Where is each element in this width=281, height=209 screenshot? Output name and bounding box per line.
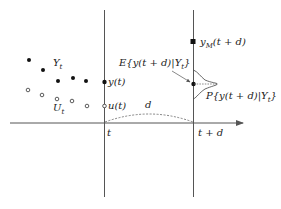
axis-label-t: t xyxy=(107,128,111,138)
horizon-arc xyxy=(105,114,193,122)
prediction-diagram xyxy=(0,0,281,209)
u-t-point xyxy=(103,104,107,108)
output-set-label: Yt xyxy=(53,58,62,71)
input-set-label: Ut xyxy=(53,103,64,116)
y-t-point xyxy=(102,80,106,84)
model-prediction-label: yM(t + d) xyxy=(200,37,246,50)
distribution-label: P{y(t + d)|Yt} xyxy=(206,91,277,104)
y-t-label: y(t) xyxy=(108,77,125,87)
horizon-label: d xyxy=(145,100,151,110)
u-t-label: u(t) xyxy=(108,101,126,111)
expectation-arrow xyxy=(172,71,190,82)
axis-label-t-plus-d: t + d xyxy=(198,128,223,138)
expectation-label: E{y(t + d)|Yt} xyxy=(119,58,190,71)
model-prediction-point xyxy=(191,39,196,44)
